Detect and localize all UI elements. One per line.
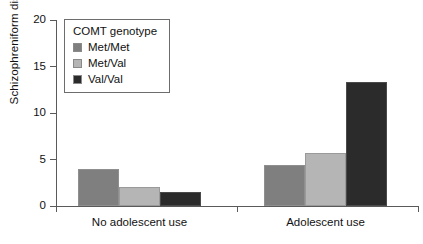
x-tick-1 [237,206,238,212]
legend-label: Met/Val [88,58,126,70]
legend-label: Val/Val [88,74,123,86]
x-axis-label-adolescent-use: Adolescent use [236,216,416,228]
legend-swatch-icon-met-val [73,59,82,68]
legend-label: Met/Met [88,42,130,54]
x-tick-2 [418,206,419,212]
legend-item-met-val: Met/Val [73,57,162,70]
legend-item-met-met: Met/Met [73,41,162,54]
bar-val-val-adolescent-use [346,82,387,206]
bar-met-val-no-adolescent-use [119,187,160,206]
bar-val-val-no-adolescent-use [160,192,201,206]
bar-chart: Schizophreniform disorder 05101520 No ad… [0,0,423,244]
legend: COMT genotype Met/MetMet/ValVal/Val [64,19,170,93]
legend-swatch-icon-met-met [73,43,82,52]
bar-met-met-adolescent-use [264,165,305,206]
bar-met-met-no-adolescent-use [78,169,119,206]
legend-items: Met/MetMet/ValVal/Val [73,41,162,86]
bar-met-val-adolescent-use [305,153,346,206]
legend-item-val-val: Val/Val [73,73,162,86]
x-tick-0 [56,206,57,212]
legend-title: COMT genotype [73,25,162,37]
x-axis-label-no-adolescent-use: No adolescent use [50,216,230,228]
legend-swatch-icon-val-val [73,75,82,84]
